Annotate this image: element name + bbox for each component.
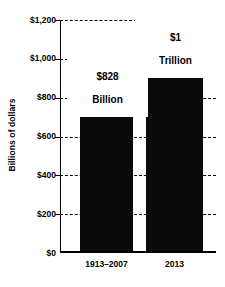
y-axis-tick-label-400: $400 (0, 171, 56, 180)
bar-value-label-1913-2007-line2: Billion (68, 94, 147, 106)
y-axis-tick-label-1000: $1,000 (0, 54, 56, 63)
y-axis-tick-label-1200: $1,200 (0, 16, 56, 25)
y-axis-tick-label-800: $800 (0, 93, 56, 102)
bar-value-label-2013-line1: $1 (136, 32, 215, 44)
x-axis-category-label-2013: 2013 (130, 260, 219, 269)
y-axis-tick-label-0: $0 (0, 249, 56, 258)
bar-2013 (146, 59, 203, 253)
bar-value-label-2013: $1 Trillion (135, 20, 216, 78)
x-axis-line (60, 251, 216, 253)
bar-chart: Billions of dollars $1,200 $1,000 $800 $… (0, 0, 225, 287)
y-axis-line (60, 20, 61, 253)
y-axis-tick-label-200: $200 (0, 210, 56, 219)
bar-value-label-2013-line2: Trillion (136, 55, 215, 67)
y-axis-tick-label-600: $600 (0, 132, 56, 141)
